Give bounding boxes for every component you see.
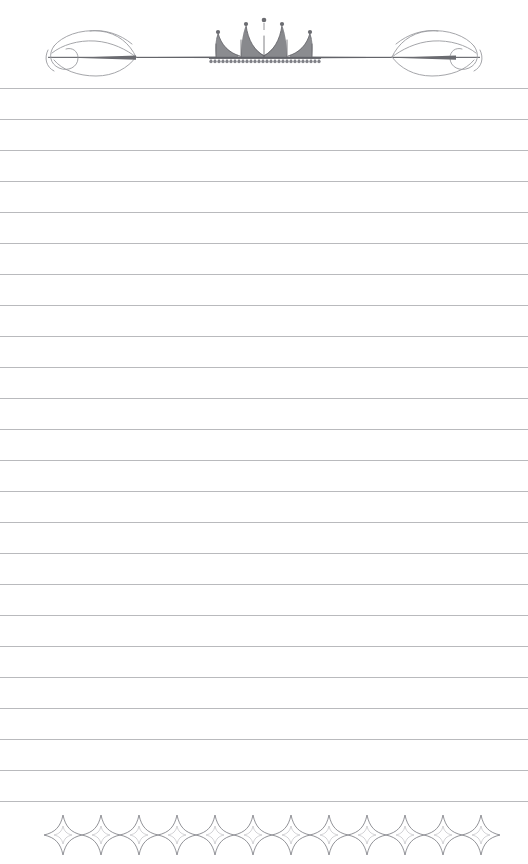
stationery-page	[0, 0, 528, 864]
left-rule-taper	[72, 56, 136, 60]
crown-beaded-band	[209, 58, 321, 63]
four-point-star-row	[44, 815, 500, 855]
header-ornament-svg	[0, 0, 528, 80]
right-scroll-flourish	[392, 31, 482, 76]
footer-ornament	[0, 802, 528, 864]
crown-ornament	[209, 18, 321, 64]
writing-area[interactable]	[0, 80, 528, 800]
left-scroll-flourish	[46, 31, 136, 76]
four-point-star-border-svg	[0, 802, 528, 864]
header-ornament	[0, 0, 528, 80]
